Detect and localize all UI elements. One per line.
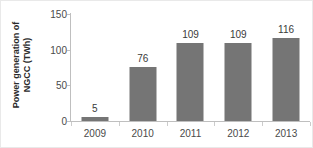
bar-slot: 109: [167, 1, 215, 121]
y-axis-tick-label: 100: [50, 44, 67, 55]
x-axis-category-label: 2010: [132, 128, 154, 139]
x-axis-tick-mark: [119, 122, 120, 126]
x-axis-tick-mark: [214, 122, 215, 126]
bar-value-label: 109: [182, 29, 199, 40]
bar-value-label: 5: [92, 103, 98, 114]
bar-slot: 5: [71, 1, 119, 121]
y-axis-tick-labels: 150100500: [37, 1, 67, 148]
y-axis-tick-label: 50: [56, 80, 67, 91]
x-axis-category-label: 2011: [180, 128, 202, 139]
bar[interactable]: [81, 117, 108, 121]
y-axis-title: Power generation of NGCC (TWh): [5, 1, 39, 129]
x-axis-category-label: 2009: [84, 128, 106, 139]
bar-slot: 116: [262, 1, 310, 121]
bar-slot: 109: [214, 1, 262, 121]
bar[interactable]: [177, 43, 204, 121]
y-axis-title-line-1: Power generation of: [11, 22, 22, 109]
x-axis-tick-mark: [71, 122, 72, 126]
x-axis-category-label: 2012: [227, 128, 249, 139]
x-axis-tick-mark: [262, 122, 263, 126]
x-axis-category-labels: 20092010201120122013: [71, 128, 310, 146]
x-axis-tick-mark: [310, 122, 311, 126]
bar-series: 576109109116: [71, 1, 310, 122]
bar-slot: 76: [119, 1, 167, 121]
bar-value-label: 116: [278, 24, 294, 35]
x-axis-category-label: 2013: [275, 128, 297, 139]
y-axis-title-line-2: NGCC (TWh): [22, 22, 33, 109]
bar[interactable]: [129, 67, 156, 121]
bar-value-label: 109: [230, 29, 247, 40]
y-axis-tick-label: 150: [50, 9, 67, 20]
bar-value-label: 76: [137, 53, 148, 64]
bar[interactable]: [225, 43, 252, 121]
bar[interactable]: [273, 38, 300, 121]
x-axis-tick-mark: [167, 122, 168, 126]
bar-chart-figure: Power generation of NGCC (TWh) 150100500…: [0, 0, 313, 148]
